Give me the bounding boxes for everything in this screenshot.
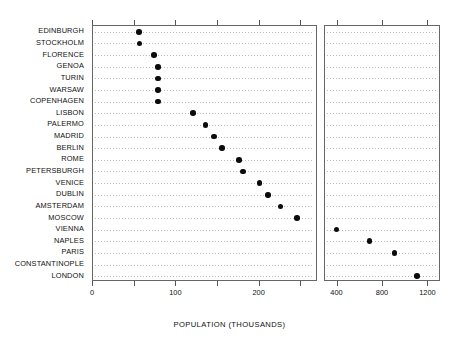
axis-tick <box>175 281 176 286</box>
data-point-venice <box>257 180 263 186</box>
axis-tick-label-800: 800 <box>376 288 388 297</box>
axis-tick-label-400: 400 <box>330 288 342 297</box>
axis-tick <box>259 281 260 286</box>
grid-row <box>95 43 314 44</box>
axis-tick <box>337 20 338 25</box>
category-label-turin: TURIN <box>61 72 84 83</box>
grid-row <box>327 160 437 161</box>
grid-row <box>327 183 437 184</box>
category-label-petersburgh: PETERSBURGH <box>26 165 84 176</box>
grid-row <box>95 183 314 184</box>
grid-row <box>95 265 314 266</box>
axis-tick-label-100: 100 <box>169 288 181 297</box>
axis-tick <box>217 281 218 286</box>
category-label-moscow: MOSCOW <box>48 212 84 223</box>
category-label-edinburgh: EDINBURGH <box>38 25 84 36</box>
grid-row <box>327 171 437 172</box>
grid-row <box>327 230 437 231</box>
grid-row <box>95 148 314 149</box>
grid-row <box>95 102 314 103</box>
grid-row <box>95 32 314 33</box>
dot-plot-chart: EDINBURGHSTOCKHOLMFLORENCEGENOATURINWARS… <box>0 0 459 346</box>
axis-tick-label-0: 0 <box>90 288 94 297</box>
x-axis-title: POPULATION (THOUSANDS) <box>0 320 459 329</box>
category-label-rome: ROME <box>61 153 84 164</box>
grid-row <box>327 265 437 266</box>
grid-row <box>327 276 437 277</box>
category-label-warsaw: WARSAW <box>50 84 84 95</box>
category-label-stockholm: STOCKHOLM <box>36 37 84 48</box>
grid-row <box>95 137 314 138</box>
grid-row <box>95 113 314 114</box>
grid-row <box>327 195 437 196</box>
category-label-vienna: VIENNA <box>56 223 84 234</box>
data-point-florence <box>151 52 157 58</box>
data-point-vienna <box>334 227 340 233</box>
grid-row <box>95 160 314 161</box>
axis-tick-label-1200: 1200 <box>419 288 435 297</box>
data-point-dublin <box>265 192 271 198</box>
data-point-petersburgh <box>240 169 246 175</box>
axis-tick <box>217 20 218 25</box>
grid-row <box>327 43 437 44</box>
axis-tick <box>337 281 338 286</box>
category-label-palermo: PALERMO <box>47 118 84 129</box>
grid-row <box>95 78 314 79</box>
data-point-copenhagen <box>155 99 161 105</box>
grid-row <box>327 218 437 219</box>
data-point-amsterdam <box>278 204 284 210</box>
grid-row <box>95 230 314 231</box>
category-label-constantinople: CONSTANTINOPLE <box>15 258 84 269</box>
data-point-paris <box>392 250 398 256</box>
axis-tick <box>175 20 176 25</box>
data-point-madrid <box>211 134 217 140</box>
data-point-edinburgh <box>136 29 142 35</box>
grid-row <box>95 67 314 68</box>
axis-tick <box>382 281 383 286</box>
category-label-venice: VENICE <box>56 177 84 188</box>
axis-tick <box>382 20 383 25</box>
category-label-dublin: DUBLIN <box>56 188 84 199</box>
category-label-london: LONDON <box>51 270 84 281</box>
category-label-genoa: GENOA <box>57 60 84 71</box>
grid-row <box>327 55 437 56</box>
chart-panel-left <box>92 25 317 281</box>
data-point-naples <box>367 238 373 244</box>
grid-row <box>327 125 437 126</box>
data-point-moscow <box>294 215 300 221</box>
data-point-genoa <box>155 64 161 70</box>
grid-row <box>327 102 437 103</box>
grid-row <box>95 218 314 219</box>
data-point-rome <box>236 157 242 163</box>
grid-row <box>95 253 314 254</box>
grid-row <box>327 90 437 91</box>
axis-tick <box>300 20 301 25</box>
axis-tick <box>134 20 135 25</box>
grid-row <box>95 241 314 242</box>
plot-area-left <box>93 26 316 280</box>
category-label-amsterdam: AMSTERDAM <box>35 200 84 211</box>
grid-row <box>327 206 437 207</box>
axis-tick <box>427 281 428 286</box>
category-label-copenhagen: COPENHAGEN <box>30 95 84 106</box>
data-point-lisbon <box>190 110 196 116</box>
axis-tick <box>92 20 93 25</box>
axis-tick <box>427 20 428 25</box>
grid-row <box>327 148 437 149</box>
category-label-paris: PARIS <box>62 246 84 257</box>
chart-panel-right <box>324 25 440 281</box>
axis-tick <box>300 281 301 286</box>
axis-tick <box>259 20 260 25</box>
grid-row <box>95 55 314 56</box>
axis-tick <box>134 281 135 286</box>
category-label-berlin: BERLIN <box>56 142 84 153</box>
category-label-madrid: MADRID <box>54 130 84 141</box>
category-label-lisbon: LISBON <box>56 107 84 118</box>
grid-row <box>327 67 437 68</box>
axis-tick <box>92 281 93 286</box>
grid-row <box>327 253 437 254</box>
data-point-london <box>414 273 420 279</box>
data-point-berlin <box>219 145 225 151</box>
grid-row <box>95 90 314 91</box>
grid-row <box>327 137 437 138</box>
